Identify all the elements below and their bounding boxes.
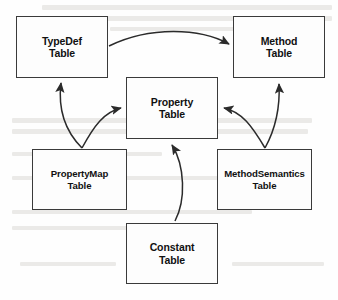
edge-propertymap-to-typedef xyxy=(60,83,82,148)
node-constant-table-line2: Table xyxy=(159,254,185,266)
node-method-table: Method Table xyxy=(233,16,325,78)
edge-methodsemantics-to-property xyxy=(224,108,265,148)
edge-methodsemantics-to-method xyxy=(265,84,279,148)
edge-constant-to-property xyxy=(172,145,183,221)
node-constant-table-line1: Constant xyxy=(150,241,195,253)
node-propertymap-table-line1: PropertyMap xyxy=(51,168,109,179)
diagram-canvas: TypeDef Table Method Table Property Tabl… xyxy=(0,0,338,300)
edge-typedef-to-method xyxy=(109,32,229,47)
node-method-table-line1: Method xyxy=(261,35,298,47)
node-constant-table: Constant Table xyxy=(126,223,218,284)
node-property-table-line2: Table xyxy=(159,108,185,120)
node-property-table-line1: Property xyxy=(151,96,193,108)
node-methodsemantics-table-line1: MethodSemantics xyxy=(224,168,305,179)
node-typedef-table-line1: TypeDef xyxy=(42,35,82,47)
node-methodsemantics-table: MethodSemantics Table xyxy=(217,149,312,210)
node-typedef-table: TypeDef Table xyxy=(16,16,108,78)
node-property-table: Property Table xyxy=(126,77,218,139)
node-propertymap-table: PropertyMap Table xyxy=(32,149,127,210)
node-method-table-line2: Table xyxy=(266,47,292,59)
node-propertymap-table-line2: Table xyxy=(68,180,92,191)
node-typedef-table-line2: Table xyxy=(49,47,75,59)
node-methodsemantics-table-line2: Table xyxy=(253,180,277,191)
edge-propertymap-to-property xyxy=(82,108,121,148)
